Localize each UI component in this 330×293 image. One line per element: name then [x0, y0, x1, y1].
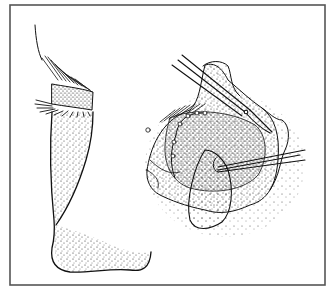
illustration-canvas [0, 0, 330, 293]
nose-tip-shading [54, 225, 151, 272]
brow-line [35, 25, 42, 60]
nose-shading [50, 112, 93, 225]
operative-view [145, 55, 305, 237]
profile-view [35, 25, 151, 272]
surgical-illustration [0, 0, 330, 293]
